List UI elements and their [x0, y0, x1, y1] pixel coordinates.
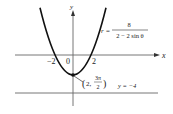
equation-lhs: r =: [101, 27, 110, 35]
parabola-diagram: x y −2 0 2 r = 8 2 − 2 sin θ ( 2, 3π 2 )…: [0, 0, 173, 114]
vertex-label: ( 2, 3π 2 ): [82, 75, 106, 90]
y-axis-label: y: [69, 3, 74, 11]
vertex-label-radius: 2,: [86, 80, 92, 88]
x-axis-arrow-icon: [154, 53, 160, 57]
vertex-label-angle-denominator: 2: [97, 84, 100, 90]
tick-label-0: 0: [66, 57, 70, 66]
equation-numerator: 8: [127, 21, 130, 28]
x-axis-label: x: [161, 51, 166, 60]
tick-label-neg2: −2: [47, 57, 56, 66]
equation-denominator: 2 − 2 sin θ: [116, 32, 143, 39]
vertex-label-angle-numerator: 3π: [95, 75, 101, 81]
vertex-label-close-paren: ): [103, 78, 106, 90]
directrix-label: y = −4: [117, 82, 137, 89]
equation-label: r = 8 2 − 2 sin θ: [101, 21, 148, 39]
tick-label-2: 2: [92, 57, 96, 66]
